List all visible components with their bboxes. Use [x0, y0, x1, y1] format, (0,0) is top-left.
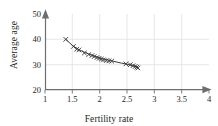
axis-lines — [43, 11, 210, 92]
x-tick-labels: 1 1.5 2 2.5 3 3.5 4 — [43, 94, 212, 104]
scatter-plot: 1 1.5 2 2.5 3 3.5 4 20 30 40 50 — [0, 0, 218, 126]
chart-figure: 1 1.5 2 2.5 3 3.5 4 20 30 40 50 Average … — [0, 0, 218, 126]
x-tick-label-2: 2 — [98, 94, 102, 104]
grid-lines — [45, 14, 209, 90]
y-tick-label-1: 30 — [33, 60, 42, 70]
x-tick-label-1: 1.5 — [67, 94, 78, 104]
data-point-markers — [63, 37, 140, 70]
x-tick-label-3: 2.5 — [122, 94, 133, 104]
y-tick-labels: 20 30 40 50 — [33, 9, 42, 95]
x-tick-label-5: 3.5 — [176, 94, 187, 104]
y-tick-label-0: 20 — [33, 85, 42, 95]
y-axis-arrow-icon — [43, 11, 48, 18]
x-axis-title: Fertility rate — [0, 114, 218, 124]
x-tick-label-0: 1 — [43, 94, 47, 104]
x-tick-label-4: 3 — [152, 94, 156, 104]
y-tick-label-2: 40 — [33, 34, 42, 44]
x-tick-label-6: 4 — [207, 94, 212, 104]
y-tick-label-3: 50 — [33, 9, 42, 19]
